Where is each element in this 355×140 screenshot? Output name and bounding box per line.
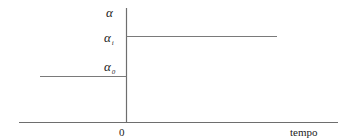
origin-label: 0 [119, 127, 125, 138]
alpha-i-subscript: i [112, 39, 114, 47]
label-alpha-i: αi [104, 31, 114, 47]
alpha-i-base: α [104, 30, 111, 45]
alpha-0-subscript: 0 [112, 68, 116, 76]
alpha-symbol: α [106, 5, 113, 20]
x-axis-label-tempo: tempo [290, 127, 318, 138]
step-diagram [0, 0, 355, 140]
y-axis-label-alpha: α [106, 6, 113, 19]
label-alpha-0: α0 [104, 60, 115, 76]
alpha-0-base: α [104, 59, 111, 74]
